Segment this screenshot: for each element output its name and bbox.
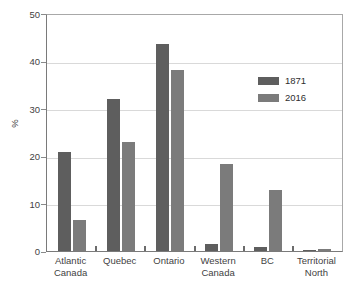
y-tick-label-10: 10 <box>8 199 40 210</box>
x-axis-label-western-canada: WesternCanada <box>194 255 243 278</box>
y-tick-mark-0 <box>41 252 46 253</box>
category-separator-tick <box>243 246 245 251</box>
chart-legend: 1871 2016 <box>258 74 338 108</box>
plot-area <box>46 14 343 252</box>
bar-1871-ontario <box>156 44 169 251</box>
legend-item-1871: 1871 <box>258 74 338 87</box>
bar-2016-quebec <box>122 142 135 251</box>
bar-1871-western-canada <box>205 244 218 251</box>
category-separator-tick <box>292 246 294 251</box>
bar-2016-western-canada <box>220 164 233 251</box>
bar-1871-bc <box>254 247 267 251</box>
y-axis-title: % <box>9 104 20 144</box>
legend-label-2016: 2016 <box>285 92 306 103</box>
bar-2016-bc <box>269 190 282 251</box>
bar-1871-quebec <box>107 99 120 251</box>
x-axis-label-territorial-north: TerritorialNorth <box>292 255 341 278</box>
x-axis-label-ontario: Ontario <box>144 255 193 267</box>
y-tick-label-0: 0 <box>8 246 40 257</box>
y-tick-label-40: 40 <box>8 56 40 67</box>
legend-swatch-2016 <box>258 94 279 102</box>
bar-chart: 50 40 30 20 10 0 % 1871 2016 A <box>0 0 359 302</box>
x-axis-label-quebec: Quebec <box>95 255 144 267</box>
y-tick-label-20: 20 <box>8 151 40 162</box>
bar-2016-territorial-north <box>318 249 331 251</box>
legend-swatch-1871 <box>258 77 279 85</box>
category-separator-tick <box>95 246 97 251</box>
bar-2016-ontario <box>171 70 184 251</box>
legend-item-2016: 2016 <box>258 91 338 104</box>
bars-layer <box>47 15 342 251</box>
category-separator-tick <box>144 246 146 251</box>
y-tick-label-50: 50 <box>8 9 40 20</box>
legend-label-1871: 1871 <box>285 75 306 86</box>
bar-1871-territorial-north <box>303 250 316 251</box>
category-separator-tick <box>194 246 196 251</box>
x-axis-labels: AtlanticCanadaQuebecOntarioWesternCanada… <box>46 255 343 301</box>
x-axis-label-bc: BC <box>243 255 292 267</box>
x-axis-label-atlantic-canada: AtlanticCanada <box>46 255 95 278</box>
bar-1871-atlantic-canada <box>58 152 71 251</box>
bar-2016-atlantic-canada <box>73 220 86 251</box>
